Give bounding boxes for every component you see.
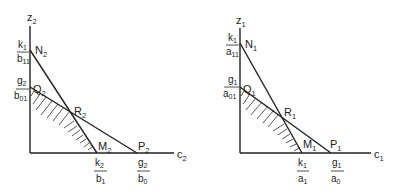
left-y-tick-k1-b11: k1 b11 xyxy=(17,39,30,65)
left-x-axis-label: c2 xyxy=(177,148,187,163)
right-y-tick-g1-a01: g1 a01 xyxy=(223,74,239,100)
svg-text:k1: k1 xyxy=(228,32,237,44)
svg-text:a11: a11 xyxy=(226,46,239,58)
svg-text:a1: a1 xyxy=(298,173,308,185)
svg-text:b0: b0 xyxy=(138,173,148,185)
svg-text:g1: g1 xyxy=(228,74,238,86)
svg-text:a0: a0 xyxy=(331,173,341,185)
right-y-tick-k1-a11: k1 a11 xyxy=(226,32,239,58)
left-x-tick-g2-b0: g2 b0 xyxy=(137,157,150,185)
right-point-Q: Q1 xyxy=(243,83,256,98)
right-panel: z1 c1 N1 Q1 R1 M1 P1 k1 a11 g1 a01 xyxy=(223,14,384,185)
svg-text:g1: g1 xyxy=(332,157,342,169)
right-point-N: N1 xyxy=(245,38,257,53)
right-y-axis-label: z1 xyxy=(236,14,246,29)
left-point-Q: Q2 xyxy=(33,83,46,98)
left-hatch-region xyxy=(31,91,92,150)
svg-text:k1: k1 xyxy=(298,157,307,169)
left-x-tick-k2-b1: k2 b1 xyxy=(94,157,107,185)
right-point-R: R1 xyxy=(284,106,296,121)
svg-text:a01: a01 xyxy=(223,88,236,100)
svg-text:k2: k2 xyxy=(95,157,104,169)
svg-text:b01: b01 xyxy=(14,90,27,102)
diagram-canvas: z2 c2 N2 Q2 R2 M2 P2 k1 b11 g2 b01 xyxy=(0,0,398,195)
right-hatch-region xyxy=(241,91,299,151)
left-y-axis-label: z2 xyxy=(27,11,37,26)
right-x-tick-k1-a1: k1 a1 xyxy=(297,157,309,185)
right-x-axis-label: c1 xyxy=(374,148,384,163)
svg-text:b11: b11 xyxy=(17,53,30,65)
right-line-N-M xyxy=(240,43,302,153)
left-panel: z2 c2 N2 Q2 R2 M2 P2 k1 b11 g2 b01 xyxy=(14,11,187,185)
svg-text:g2: g2 xyxy=(138,157,148,169)
right-x-tick-g1-a0: g1 a0 xyxy=(331,157,344,185)
left-y-tick-g2-b01: g2 b01 xyxy=(14,75,29,102)
left-line-Q-P xyxy=(30,87,137,153)
svg-text:g2: g2 xyxy=(17,75,27,87)
left-point-N: N2 xyxy=(35,44,47,59)
svg-text:k1: k1 xyxy=(18,39,27,51)
left-line-N-M xyxy=(30,50,97,153)
svg-text:b1: b1 xyxy=(96,173,106,185)
right-point-P: P1 xyxy=(330,138,342,153)
